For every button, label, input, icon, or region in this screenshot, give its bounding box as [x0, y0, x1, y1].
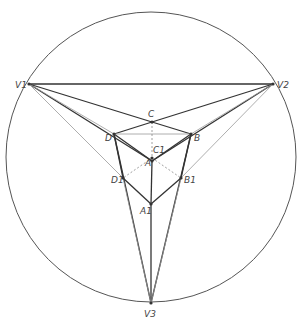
segment-V1-A	[29, 84, 152, 161]
segment-D-A	[114, 134, 152, 161]
segment-V3-D1	[123, 178, 151, 303]
point-c	[150, 120, 153, 123]
segment-C-B	[152, 122, 191, 134]
point-b1	[179, 176, 182, 179]
label-c1: C1	[153, 145, 165, 155]
segment-V2-B	[191, 84, 273, 134]
label-v1: V1	[15, 80, 27, 90]
segment-B1-A1	[151, 178, 181, 204]
segment-D-C	[114, 122, 152, 134]
label-b1: B1	[184, 175, 196, 185]
diagram-labels: V1V2V3CDBC1AD1B1A1	[15, 80, 289, 319]
segment-V2-A	[152, 84, 273, 161]
point-d	[112, 132, 115, 135]
label-b: B	[194, 133, 200, 143]
label-d: D	[105, 133, 112, 143]
segment-V3-B1	[151, 178, 181, 303]
label-c: C	[148, 109, 155, 119]
label-v3: V3	[144, 309, 156, 319]
label-v2: V2	[277, 80, 289, 90]
label-a: A	[144, 158, 151, 168]
point-v3	[149, 301, 152, 304]
segment-C1-B1	[152, 158, 181, 178]
label-d1: D1	[111, 175, 124, 185]
geometry-diagram: V1V2V3CDBC1AD1B1A1	[0, 0, 302, 323]
segment-D1-A1	[123, 178, 151, 204]
label-a1: A1	[139, 206, 152, 216]
point-v1	[27, 82, 30, 85]
point-b	[189, 132, 192, 135]
point-v2	[271, 82, 274, 85]
